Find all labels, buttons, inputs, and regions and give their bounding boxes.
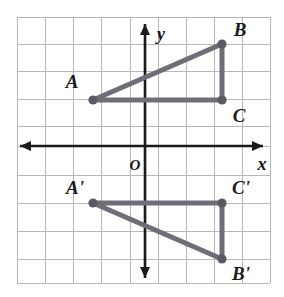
label-b: B	[233, 19, 247, 40]
vertex-b-prime	[217, 254, 226, 263]
vertex-c-prime	[217, 198, 226, 207]
vertex-c	[217, 95, 226, 104]
coordinate-plane-figure: A B C A' B' C' O y x	[0, 0, 284, 297]
vertex-b	[217, 39, 226, 48]
label-a: A	[65, 71, 79, 92]
vertex-a	[88, 95, 97, 104]
vertex-a-prime	[88, 198, 97, 207]
figure-background	[0, 0, 284, 297]
label-y-axis: y	[155, 24, 166, 44]
label-c: C	[233, 105, 246, 126]
label-origin: O	[130, 157, 141, 173]
label-a-prime: A'	[65, 177, 84, 198]
coordinate-plane-svg: A B C A' B' C' O y x	[0, 0, 284, 297]
label-c-prime: C'	[232, 177, 250, 198]
label-b-prime: B'	[231, 263, 250, 284]
label-x-axis: x	[257, 154, 267, 174]
